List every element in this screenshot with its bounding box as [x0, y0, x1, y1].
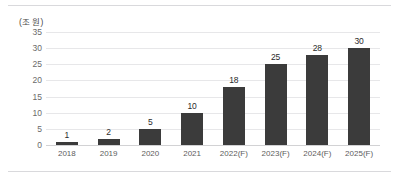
y-axis-tick-label: 30	[33, 43, 42, 53]
bars-group: 120182201952020102021182022(F)252023(F)2…	[46, 32, 380, 145]
x-axis-tick-label: 2018	[58, 150, 76, 158]
bar-group[interactable]: 102021	[171, 32, 213, 145]
bar[interactable]	[265, 64, 287, 145]
x-axis-tick-label: 2023(F)	[262, 150, 290, 158]
y-axis-unit-label: (조 원)	[19, 15, 44, 27]
y-axis-tick-label: 35	[33, 27, 42, 37]
top-divider-rule	[8, 5, 391, 6]
bar[interactable]	[181, 113, 203, 145]
x-axis-tick-label: 2021	[183, 150, 201, 158]
x-axis-tick-label: 2025(F)	[345, 150, 373, 158]
bar[interactable]	[306, 55, 328, 145]
y-axis-tick-label: 0	[37, 140, 42, 150]
y-axis-tick-label: 25	[33, 59, 42, 69]
x-axis-tick-label: 2020	[141, 150, 159, 158]
bar-value-label: 30	[354, 37, 363, 46]
bar[interactable]	[223, 87, 245, 145]
bar[interactable]	[98, 139, 120, 145]
bar-value-label: 28	[313, 44, 322, 53]
bottom-divider-rule	[8, 171, 391, 172]
plot-area: 35302520151050 1201822019520201020211820…	[46, 32, 380, 145]
y-axis-tick-label: 5	[37, 124, 42, 134]
bar-group[interactable]: 252023(F)	[255, 32, 297, 145]
bar[interactable]	[56, 142, 78, 145]
y-axis-tick-label: 10	[33, 108, 42, 118]
bar-group[interactable]: 22019	[88, 32, 130, 145]
bar[interactable]	[348, 48, 370, 145]
x-axis-tick-label: 2019	[100, 150, 118, 158]
gridline: 0	[46, 145, 380, 146]
bar-value-label: 18	[229, 76, 238, 85]
bar-value-label: 2	[106, 128, 111, 137]
x-axis-tick-label: 2024(F)	[303, 150, 331, 158]
chart-figure: (조 원) 35302520151050 1201822019520201020…	[0, 0, 399, 178]
x-axis-tick-label: 2022(F)	[220, 150, 248, 158]
bar-value-label: 10	[187, 102, 196, 111]
bar-value-label: 1	[65, 131, 70, 140]
bar-value-label: 25	[271, 53, 280, 62]
bar-group[interactable]: 12018	[46, 32, 88, 145]
bar-group[interactable]: 182022(F)	[213, 32, 255, 145]
bar-group[interactable]: 302025(F)	[338, 32, 380, 145]
y-axis-tick-label: 15	[33, 92, 42, 102]
bar-group[interactable]: 52020	[130, 32, 172, 145]
bar-value-label: 5	[148, 118, 153, 127]
bar[interactable]	[139, 129, 161, 145]
y-axis-tick-label: 20	[33, 75, 42, 85]
bar-group[interactable]: 282024(F)	[297, 32, 339, 145]
